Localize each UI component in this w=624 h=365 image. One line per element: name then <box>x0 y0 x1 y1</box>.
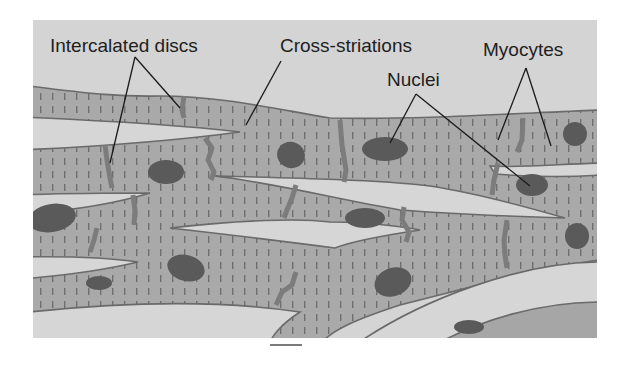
intercalated-disc <box>133 195 135 225</box>
tissue <box>20 85 600 345</box>
nucleus <box>565 223 589 249</box>
interstitial-gap <box>20 304 300 345</box>
nucleus <box>516 174 548 196</box>
nucleus <box>454 320 484 334</box>
cardiac-muscle-diagram: Intercalated discs Cross-striations Nucl… <box>0 0 624 365</box>
label-myocytes: Myocytes <box>483 39 563 60</box>
intercalated-disc <box>182 96 184 118</box>
nucleus <box>563 122 587 146</box>
nucleus <box>86 276 112 290</box>
nucleus <box>362 137 408 161</box>
label-cross-striations: Cross-striations <box>280 35 412 56</box>
label-nuclei: Nuclei <box>387 69 440 90</box>
nucleus <box>345 208 385 228</box>
scale-bar <box>270 344 302 346</box>
intercalated-disc <box>504 220 507 268</box>
nucleus <box>148 160 184 184</box>
label-intercalated-discs: Intercalated discs <box>50 35 198 56</box>
